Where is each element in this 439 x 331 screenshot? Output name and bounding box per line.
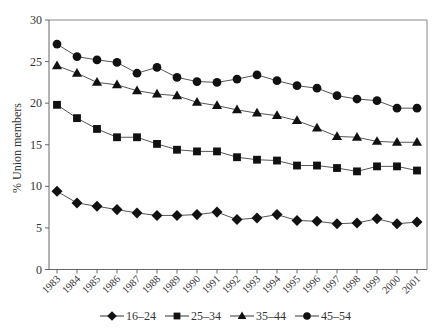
series-diamond: [51, 186, 422, 229]
circle-marker-icon: [113, 58, 122, 67]
x-tick-label: 1993: [240, 273, 263, 296]
x-tick-label: 1991: [200, 273, 223, 296]
diamond-marker-icon: [191, 209, 202, 220]
circle-marker-icon: [373, 96, 382, 105]
x-tick-label: 1988: [140, 273, 163, 296]
diamond-marker-icon: [411, 217, 422, 228]
chart-canvas: 051015202530 198319841985198619871988198…: [0, 0, 439, 331]
legend-item: 25–34: [165, 309, 221, 323]
diamond-marker-icon: [107, 311, 117, 321]
circle-marker-icon: [213, 78, 222, 87]
diamond-marker-icon: [171, 210, 182, 221]
y-axis-label: % Union members: [10, 103, 24, 193]
circle-marker-icon: [293, 81, 302, 90]
circle-marker-icon: [413, 104, 422, 113]
legend-label: 45–54: [321, 309, 351, 323]
y-tick-label: 5: [36, 221, 42, 235]
y-tick-label: 0: [36, 263, 42, 277]
legend-label: 25–34: [191, 309, 221, 323]
x-tick-label: 1996: [300, 273, 323, 296]
y-tick-label: 20: [30, 96, 42, 110]
x-tick-label: 1994: [260, 273, 283, 296]
circle-marker-icon: [73, 52, 82, 61]
x-tick-label: 2000: [380, 273, 403, 296]
diamond-marker-icon: [271, 209, 282, 220]
x-tick-label: 1990: [180, 273, 203, 296]
circle-marker-icon: [353, 95, 362, 104]
circle-marker-icon: [313, 84, 322, 93]
diamond-marker-icon: [371, 213, 382, 224]
plot-frame: [49, 20, 427, 270]
legend: 16–2425–3435–4445–54: [100, 309, 351, 323]
square-marker-icon: [193, 147, 201, 155]
circle-marker-icon: [193, 77, 202, 86]
square-marker-icon: [293, 162, 301, 170]
square-marker-icon: [153, 140, 161, 148]
triangle-marker-icon: [92, 77, 102, 86]
diamond-marker-icon: [231, 214, 242, 225]
x-tick-label: 1995: [280, 273, 303, 296]
diamond-marker-icon: [311, 216, 322, 227]
x-tick-label: 1984: [60, 273, 83, 296]
square-marker-icon: [253, 156, 261, 164]
circle-marker-icon: [233, 75, 242, 84]
square-marker-icon: [373, 162, 381, 170]
triangle-marker-icon: [332, 131, 342, 140]
square-marker-icon: [133, 133, 141, 141]
x-tick-label: 1983: [40, 273, 63, 296]
square-marker-icon: [333, 164, 341, 172]
circle-marker-icon: [273, 76, 282, 85]
x-tick-label: 1999: [360, 273, 383, 296]
square-marker-icon: [173, 146, 181, 154]
circle-marker-icon: [153, 63, 162, 72]
x-tick-label: 1986: [100, 273, 123, 296]
square-marker-icon: [353, 167, 361, 175]
square-marker-icon: [233, 153, 241, 161]
legend-label: 35–44: [256, 309, 286, 323]
diamond-marker-icon: [91, 201, 102, 212]
diamond-marker-icon: [71, 197, 82, 208]
triangle-marker-icon: [392, 137, 402, 146]
y-tick-label: 15: [30, 138, 42, 152]
x-tick-label: 1998: [340, 273, 363, 296]
diamond-marker-icon: [331, 218, 342, 229]
y-tick-label: 25: [30, 55, 42, 69]
y-axis: 051015202530: [30, 13, 49, 277]
square-marker-icon: [73, 114, 81, 122]
y-tick-label: 30: [30, 13, 42, 27]
legend-label: 16–24: [126, 309, 156, 323]
diamond-marker-icon: [111, 204, 122, 215]
circle-marker-icon: [173, 73, 182, 82]
triangle-marker-icon: [238, 311, 247, 319]
square-marker-icon: [53, 101, 61, 109]
triangle-marker-icon: [352, 132, 362, 141]
diamond-marker-icon: [351, 217, 362, 228]
x-tick-label: 2001: [400, 273, 423, 296]
diamond-marker-icon: [291, 215, 302, 226]
square-marker-icon: [273, 157, 281, 165]
diamond-marker-icon: [151, 210, 162, 221]
square-marker-icon: [213, 147, 221, 155]
square-marker-icon: [174, 313, 181, 320]
circle-marker-icon: [133, 69, 142, 78]
triangle-marker-icon: [172, 90, 182, 99]
x-tick-label: 1985: [80, 273, 103, 296]
diamond-marker-icon: [51, 186, 62, 197]
square-marker-icon: [413, 167, 421, 175]
circle-marker-icon: [53, 40, 62, 49]
legend-item: 16–24: [100, 309, 156, 323]
diamond-marker-icon: [131, 207, 142, 218]
square-marker-icon: [313, 162, 321, 170]
circle-marker-icon: [333, 91, 342, 100]
line-chart: 051015202530 198319841985198619871988198…: [0, 0, 439, 331]
legend-item: 35–44: [230, 309, 286, 323]
legend-item: 45–54: [295, 309, 351, 323]
x-tick-label: 1992: [220, 273, 243, 296]
diamond-marker-icon: [251, 212, 262, 223]
circle-marker-icon: [393, 104, 402, 113]
diamond-marker-icon: [391, 218, 402, 229]
square-marker-icon: [113, 133, 121, 141]
x-tick-label: 1989: [160, 273, 183, 296]
square-marker-icon: [393, 162, 401, 170]
y-tick-label: 10: [30, 179, 42, 193]
